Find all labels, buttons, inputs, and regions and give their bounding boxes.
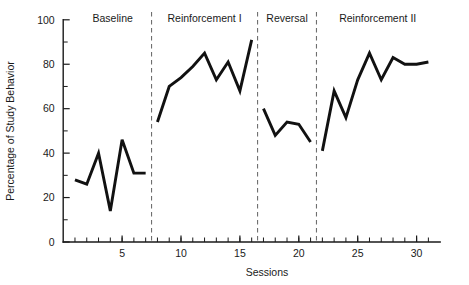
phase-labels: BaselineReinforcement IReversalReinforce… bbox=[93, 12, 417, 24]
x-tick-label: 30 bbox=[411, 247, 423, 259]
y-tick-label: 20 bbox=[43, 191, 55, 203]
y-tick-label: 40 bbox=[43, 147, 55, 159]
y-axis-title: Percentage of Study Behavior bbox=[4, 61, 16, 201]
phase-dividers bbox=[152, 12, 317, 242]
x-tick-label: 5 bbox=[119, 247, 125, 259]
data-line-baseline bbox=[75, 140, 146, 211]
data-series bbox=[75, 40, 428, 211]
data-line-reinforcement-i bbox=[157, 40, 251, 122]
y-tick-label: 0 bbox=[49, 236, 55, 248]
data-line-reinforcement-ii bbox=[322, 53, 428, 151]
x-tick-label: 10 bbox=[175, 247, 187, 259]
y-axis: 020406080100 bbox=[37, 14, 70, 248]
chart-container: BaselineReinforcement IReversalReinforce… bbox=[0, 0, 469, 285]
data-line-reversal bbox=[263, 109, 310, 142]
y-tick-label: 80 bbox=[43, 58, 55, 70]
phase-label-reinforcement-ii: Reinforcement II bbox=[339, 12, 416, 24]
x-tick-label: 15 bbox=[234, 247, 246, 259]
y-tick-label: 100 bbox=[37, 14, 55, 26]
x-axis-title: Sessions bbox=[246, 266, 289, 278]
x-tick-label: 20 bbox=[293, 247, 305, 259]
x-axis: 51015202530 bbox=[63, 236, 440, 260]
x-tick-label: 25 bbox=[352, 247, 364, 259]
phase-label-reinforcement-i: Reinforcement I bbox=[167, 12, 241, 24]
study-behavior-line-chart: BaselineReinforcement IReversalReinforce… bbox=[0, 0, 469, 285]
phase-label-baseline: Baseline bbox=[93, 12, 133, 24]
phase-label-reversal: Reversal bbox=[266, 12, 307, 24]
y-tick-label: 60 bbox=[43, 102, 55, 114]
